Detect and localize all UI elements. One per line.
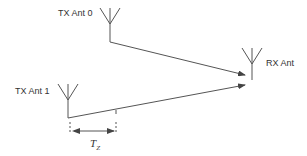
tx1-label: TX Ant 1: [15, 86, 50, 96]
delay-arrow: [72, 128, 114, 134]
delay-label: TZ: [90, 137, 100, 152]
delay-label-sub: Z: [96, 144, 100, 152]
tx1-path: [68, 85, 245, 118]
tx1-antenna-icon: [58, 84, 78, 118]
diagram-canvas: [0, 0, 307, 156]
tx0-label: TX Ant 0: [58, 8, 93, 18]
tx0-path: [110, 42, 245, 75]
tx0-antenna-icon: [100, 8, 120, 42]
rx-antenna-icon: [242, 48, 262, 80]
rx-label: RX Ant: [266, 58, 294, 68]
